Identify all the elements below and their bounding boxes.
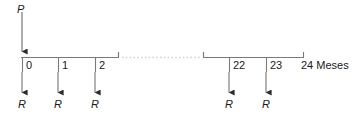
axis-tick-label-1: 1 [62, 60, 68, 71]
axis-tick-label-0: 0 [26, 60, 32, 71]
cash-flow-diagram: P 0 1 2 22 23 24 Meses R R R R R [0, 0, 354, 121]
label-payment-r-23: R [262, 99, 270, 110]
axis-tick-label-2: 2 [99, 60, 105, 71]
label-payment-r-2: R [91, 99, 99, 110]
label-payment-r-1: R [54, 99, 62, 110]
label-payment-r-0: R [18, 99, 26, 110]
axis-tick-label-22: 22 [233, 60, 245, 71]
axis-end-label-24-meses: 24 Meses [301, 60, 349, 71]
label-present-value-p: P [17, 4, 24, 15]
label-payment-r-22: R [225, 99, 233, 110]
axis-tick-label-23: 23 [270, 60, 282, 71]
